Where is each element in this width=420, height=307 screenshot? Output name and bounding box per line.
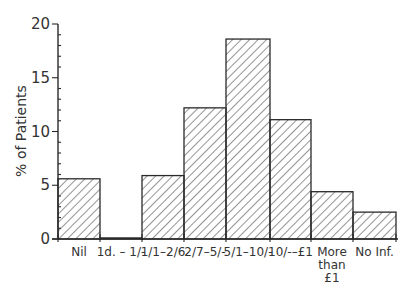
bar	[226, 39, 270, 239]
bar	[142, 176, 184, 239]
x-category-label: 5/1–10/-	[224, 245, 273, 259]
x-category-label: £1	[324, 271, 339, 285]
y-tick-label: 0	[40, 230, 50, 248]
bar	[311, 192, 353, 239]
y-axis-label: % of Patients	[13, 85, 29, 177]
x-category-label: Nil	[71, 245, 87, 259]
x-category-label: More	[317, 245, 347, 259]
y-tick-label: 15	[31, 69, 50, 87]
x-category-label: than	[318, 258, 345, 272]
y-tick-label: 5	[40, 176, 50, 194]
bars-group	[58, 39, 396, 239]
bar	[184, 108, 226, 239]
y-tick-label: 10	[31, 123, 50, 141]
x-category-label: 10/-–£1	[268, 245, 313, 259]
bar	[353, 212, 396, 239]
x-category-label: No Inf.	[355, 245, 393, 259]
bar	[58, 179, 100, 239]
y-axis: 05101520	[31, 15, 61, 248]
x-category-label: 1/1–2/6	[141, 245, 186, 259]
x-axis: Nil1d. – 1/-1/1–2/62/7–5/-5/1–10/-10/-–£…	[52, 234, 398, 285]
bar	[270, 120, 311, 239]
x-category-label: 1d. – 1/-	[97, 245, 146, 259]
histogram-chart: 05101520 Nil1d. – 1/-1/1–2/62/7–5/-5/1–1…	[0, 0, 420, 307]
x-category-label: 2/7–5/-	[184, 245, 225, 259]
y-tick-label: 20	[31, 15, 50, 33]
